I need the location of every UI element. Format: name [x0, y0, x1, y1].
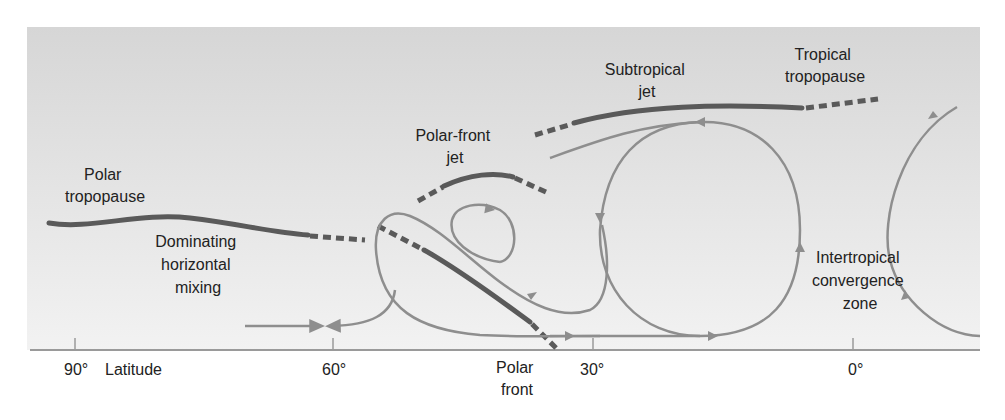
tick-label-0: 0°	[848, 361, 863, 378]
tick-label-60: 60°	[322, 361, 346, 378]
circulation-diagram: Polar tropopause Polar-front jet Subtrop…	[0, 0, 1005, 420]
label-polar-front: Polar front	[496, 359, 538, 398]
tick-label-30: 30°	[580, 361, 604, 378]
axis-title-latitude: Latitude	[105, 361, 162, 378]
tick-label-90: 90°	[64, 361, 88, 378]
